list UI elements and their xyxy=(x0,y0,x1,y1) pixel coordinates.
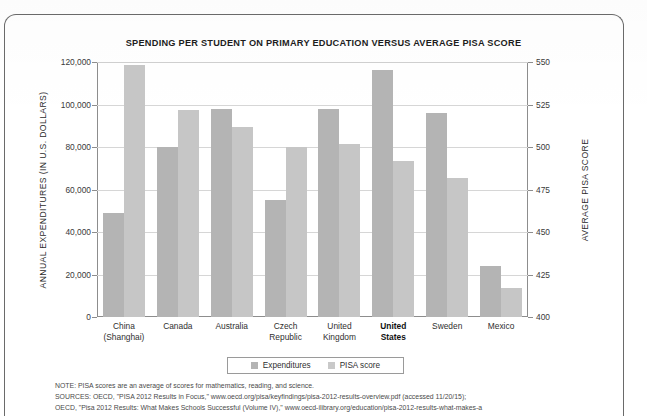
bar-expenditures xyxy=(211,109,232,317)
bar-group xyxy=(313,62,367,317)
left-axis-tick-label: 120,000 xyxy=(33,57,91,67)
right-axis-tick xyxy=(528,317,533,318)
left-axis-tick-label: 40,000 xyxy=(33,227,91,237)
category-label-line: United xyxy=(366,321,420,332)
footnote-line: OECD, "Pisa 2012 Results: What Makes Sch… xyxy=(55,402,595,413)
bar-expenditures xyxy=(372,70,393,317)
bar-group xyxy=(205,62,259,317)
right-axis-tick xyxy=(528,62,533,63)
footnote-line: SOURCES: OECD, "PISA 2012 Results in Foc… xyxy=(55,391,595,402)
bar-group xyxy=(259,62,313,317)
bar-group xyxy=(151,62,205,317)
bar-pisa-score xyxy=(393,161,414,317)
bar-expenditures xyxy=(157,147,178,317)
category-label: CzechRepublic xyxy=(259,321,313,342)
right-axis-tick xyxy=(528,232,533,233)
category-label-line: Canada xyxy=(151,321,205,332)
bar-pisa-score xyxy=(232,127,253,317)
bar-expenditures xyxy=(103,213,124,317)
right-axis-tick-label: 425 xyxy=(536,270,594,280)
left-axis-tick-label: 20,000 xyxy=(33,270,91,280)
legend-item[interactable]: PISA score xyxy=(328,361,381,370)
legend-item[interactable]: Expenditures xyxy=(251,361,311,370)
category-label-line: Republic xyxy=(259,332,313,343)
bar-pisa-score xyxy=(178,110,199,317)
bar-expenditures xyxy=(318,109,339,317)
bar-pisa-score xyxy=(124,65,145,317)
category-label-line: Australia xyxy=(205,321,259,332)
bar-group xyxy=(97,62,151,317)
category-label-line: Mexico xyxy=(474,321,528,332)
footnote-line: NOTE: PISA scores are an average of scor… xyxy=(55,380,595,391)
category-label-line: China xyxy=(97,321,151,332)
category-label: Australia xyxy=(205,321,259,332)
category-label-line: United xyxy=(313,321,367,332)
category-label-line: Kingdom xyxy=(313,332,367,343)
bar-expenditures xyxy=(426,113,447,317)
right-axis-tick-label: 475 xyxy=(536,185,594,195)
category-labels: China(Shanghai)CanadaAustraliaCzechRepub… xyxy=(97,321,528,355)
category-label-line: Sweden xyxy=(420,321,474,332)
right-axis-tick-label: 450 xyxy=(536,227,594,237)
category-label: Canada xyxy=(151,321,205,332)
right-axis-tick xyxy=(528,147,533,148)
category-label: UnitedStates xyxy=(366,321,420,342)
bar-group xyxy=(420,62,474,317)
category-label: Mexico xyxy=(474,321,528,332)
right-axis-tick-label: 400 xyxy=(536,312,594,322)
category-label: Sweden xyxy=(420,321,474,332)
bar-group xyxy=(474,62,528,317)
bar-pisa-score xyxy=(286,147,307,317)
left-axis-tick-label: 0 xyxy=(33,312,91,322)
right-axis-tick xyxy=(528,105,533,106)
left-axis-tick xyxy=(92,317,97,318)
chart-legend: ExpendituresPISA score xyxy=(227,357,404,374)
bar-pisa-score xyxy=(447,178,468,317)
bar-expenditures xyxy=(480,266,501,317)
right-axis-tick xyxy=(528,190,533,191)
right-axis-tick-label: 500 xyxy=(536,142,594,152)
legend-label: PISA score xyxy=(340,361,381,370)
bar-expenditures xyxy=(265,200,286,317)
square-swatch-icon xyxy=(251,362,258,369)
square-swatch-icon xyxy=(328,362,335,369)
left-axis-tick-label: 60,000 xyxy=(33,185,91,195)
category-label-line: States xyxy=(366,332,420,343)
category-label: China(Shanghai) xyxy=(97,321,151,342)
category-label-line: Czech xyxy=(259,321,313,332)
bar-pisa-score xyxy=(501,288,522,317)
bar-pisa-score xyxy=(339,144,360,317)
legend-label: Expenditures xyxy=(263,361,311,370)
left-axis-tick-label: 100,000 xyxy=(33,100,91,110)
footnotes: NOTE: PISA scores are an average of scor… xyxy=(55,380,595,413)
bar-group xyxy=(366,62,420,317)
right-axis-tick-label: 550 xyxy=(536,57,594,67)
left-axis-tick-label: 80,000 xyxy=(33,142,91,152)
category-label-line: (Shanghai) xyxy=(97,332,151,343)
right-axis-tick xyxy=(528,275,533,276)
chart-title: SPENDING PER STUDENT ON PRIMARY EDUCATIO… xyxy=(0,38,647,48)
plot-wrapper xyxy=(97,62,528,317)
right-axis-tick-label: 525 xyxy=(536,100,594,110)
category-label: UnitedKingdom xyxy=(313,321,367,342)
